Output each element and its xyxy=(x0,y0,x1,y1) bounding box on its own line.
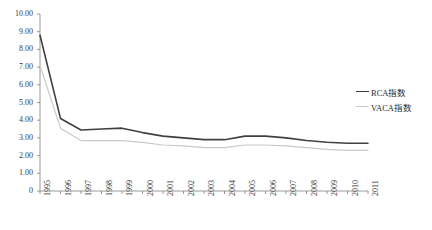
axis-lines xyxy=(37,14,368,194)
legend-item-rca: RCA指数 xyxy=(356,84,432,99)
line-chart: 10.009.008.007.006.005.004.003.002.001.0… xyxy=(0,0,432,230)
chart-legend: RCA指数 VACA指数 xyxy=(356,84,432,114)
legend-label-vaca: VACA指数 xyxy=(371,101,412,113)
legend-swatch-vaca xyxy=(356,106,369,107)
legend-label-rca: RCA指数 xyxy=(371,86,406,98)
plot-area xyxy=(0,0,432,230)
series-line xyxy=(40,35,368,143)
legend-item-vaca: VACA指数 xyxy=(356,99,432,114)
series-lines xyxy=(40,35,368,150)
series-line xyxy=(40,65,368,150)
legend-swatch-rca xyxy=(356,91,369,92)
